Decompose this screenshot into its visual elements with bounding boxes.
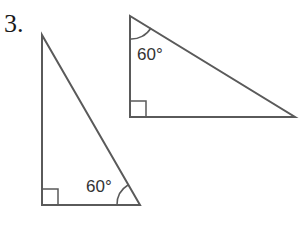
left-angle-label: 60° <box>86 177 112 196</box>
right-triangle <box>130 16 295 117</box>
right-angle-marker <box>42 189 58 205</box>
angle-arc <box>130 28 151 39</box>
triangles-diagram: 60° 60° <box>0 0 305 229</box>
angle-arc <box>117 185 128 205</box>
right-angle-label: 60° <box>137 45 163 64</box>
right-angle-marker <box>130 101 146 117</box>
